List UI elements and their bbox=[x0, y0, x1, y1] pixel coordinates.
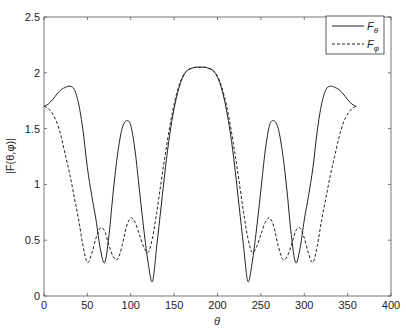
y-tick-label: 2 bbox=[34, 67, 40, 79]
x-tick-label: 200 bbox=[208, 299, 226, 311]
x-tick-label: 100 bbox=[122, 299, 140, 311]
chart: 05010015020025030035040000.511.522.5 Fθ … bbox=[0, 0, 406, 331]
x-tick-label: 300 bbox=[295, 299, 313, 311]
x-tick-label: 350 bbox=[338, 299, 356, 311]
legend: Fθ Fφ bbox=[326, 16, 384, 54]
y-tick-label: 1.5 bbox=[25, 123, 40, 135]
plot-lines bbox=[44, 67, 356, 282]
axes: 05010015020025030035040000.511.522.5 bbox=[25, 11, 400, 311]
y-tick-label: 2.5 bbox=[25, 11, 40, 23]
series-line-f-theta bbox=[44, 67, 356, 282]
x-tick-label: 250 bbox=[252, 299, 270, 311]
x-axis-label: θ bbox=[214, 315, 220, 327]
y-axis-label: |F(θ,φ)| bbox=[4, 138, 16, 174]
x-tick-label: 0 bbox=[41, 299, 47, 311]
x-tick-label: 150 bbox=[165, 299, 183, 311]
y-tick-label: 0.5 bbox=[25, 234, 40, 246]
y-tick-label: 1 bbox=[34, 178, 40, 190]
x-tick-label: 400 bbox=[382, 299, 400, 311]
plot-frame bbox=[44, 17, 391, 296]
series-line-f-phi bbox=[44, 67, 356, 263]
y-tick-label: 0 bbox=[34, 290, 40, 302]
x-tick-label: 50 bbox=[81, 299, 93, 311]
